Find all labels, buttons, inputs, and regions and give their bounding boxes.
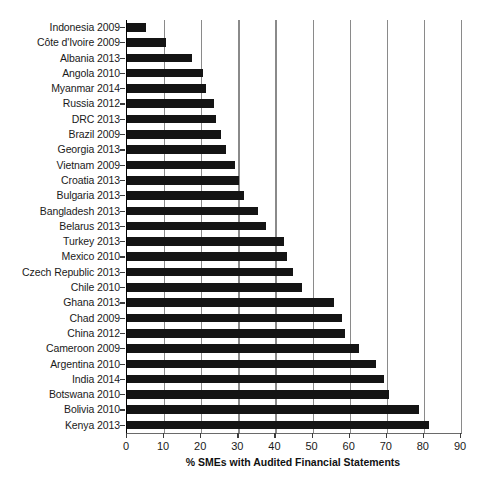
category-tick bbox=[120, 256, 125, 257]
bar bbox=[127, 298, 334, 307]
category-tick bbox=[120, 333, 125, 334]
x-tick bbox=[200, 433, 201, 438]
category-tick bbox=[120, 394, 125, 395]
x-axis-line bbox=[126, 433, 463, 434]
bar-row bbox=[127, 96, 461, 111]
category-tick bbox=[120, 149, 125, 150]
x-tick-label: 20 bbox=[185, 440, 215, 452]
category-label: China 2012 bbox=[67, 327, 120, 339]
bar bbox=[127, 329, 345, 338]
category-label: Czech Republic 2013 bbox=[22, 266, 120, 278]
category-tick bbox=[120, 241, 125, 242]
category-tick bbox=[120, 348, 125, 349]
bar-row bbox=[127, 341, 461, 356]
x-tick bbox=[312, 433, 313, 438]
bar-row bbox=[127, 204, 461, 219]
bar-row bbox=[127, 81, 461, 96]
category-label: Angola 2010 bbox=[62, 67, 120, 79]
category-tick bbox=[120, 195, 125, 196]
category-tick bbox=[120, 165, 125, 166]
bar bbox=[127, 99, 214, 108]
x-tick-label: 10 bbox=[148, 440, 178, 452]
category-tick bbox=[120, 73, 125, 74]
category-tick bbox=[120, 119, 125, 120]
x-tick-label: 40 bbox=[259, 440, 289, 452]
category-tick bbox=[120, 287, 125, 288]
bar bbox=[127, 130, 221, 139]
category-tick bbox=[120, 27, 125, 28]
category-tick bbox=[120, 88, 125, 89]
bar-row bbox=[127, 234, 461, 249]
bar-row bbox=[127, 326, 461, 341]
bar-row bbox=[127, 66, 461, 81]
bar-row bbox=[127, 188, 461, 203]
category-tick bbox=[120, 134, 125, 135]
x-tick bbox=[460, 433, 461, 438]
x-tick-label: 90 bbox=[445, 440, 475, 452]
category-label: DRC 2013 bbox=[72, 113, 120, 125]
category-label: Russia 2012 bbox=[63, 97, 120, 109]
category-label: Chad 2009 bbox=[70, 312, 120, 324]
category-axis-labels: Indonesia 2009Côte d'Ivoire 2009Albania … bbox=[0, 20, 126, 433]
bar-row bbox=[127, 20, 461, 35]
x-tick-label: 0 bbox=[111, 440, 141, 452]
x-tick bbox=[163, 433, 164, 438]
category-label: Brazil 2009 bbox=[69, 128, 120, 140]
bar bbox=[127, 360, 376, 369]
bar bbox=[127, 38, 166, 47]
category-tick bbox=[120, 58, 125, 59]
bar-row bbox=[127, 357, 461, 372]
bar bbox=[127, 23, 146, 32]
category-label: India 2014 bbox=[72, 373, 120, 385]
bar-row bbox=[127, 295, 461, 310]
bar-row bbox=[127, 402, 461, 417]
category-label: Ghana 2013 bbox=[63, 296, 120, 308]
bar bbox=[127, 252, 287, 261]
x-tick bbox=[423, 433, 424, 438]
category-tick bbox=[120, 302, 125, 303]
bar bbox=[127, 207, 258, 216]
x-tick-label: 50 bbox=[297, 440, 327, 452]
x-tick-label: 30 bbox=[222, 440, 252, 452]
bar-row bbox=[127, 112, 461, 127]
category-label: Bulgaria 2013 bbox=[57, 189, 121, 201]
category-label: Argentina 2010 bbox=[50, 358, 120, 370]
bar bbox=[127, 161, 235, 170]
category-tick bbox=[120, 318, 125, 319]
bar bbox=[127, 314, 342, 323]
bar bbox=[127, 237, 284, 246]
bar bbox=[127, 145, 226, 154]
category-tick bbox=[120, 379, 125, 380]
bar-row bbox=[127, 127, 461, 142]
bar-row bbox=[127, 280, 461, 295]
category-tick bbox=[120, 364, 125, 365]
category-label: Myanmar 2014 bbox=[51, 82, 120, 94]
bar bbox=[127, 421, 429, 430]
bar bbox=[127, 390, 389, 399]
bar bbox=[127, 84, 206, 93]
bar bbox=[127, 375, 384, 384]
bar-row bbox=[127, 372, 461, 387]
bar bbox=[127, 176, 239, 185]
category-label: Bolivia 2010 bbox=[64, 403, 120, 415]
bar bbox=[127, 191, 244, 200]
bar bbox=[127, 222, 266, 231]
category-tick bbox=[120, 409, 125, 410]
bar-row bbox=[127, 418, 461, 433]
bar bbox=[127, 283, 302, 292]
category-label: Mexico 2010 bbox=[62, 250, 120, 262]
bar bbox=[127, 344, 359, 353]
x-tick bbox=[126, 433, 127, 438]
x-tick bbox=[349, 433, 350, 438]
bar-row bbox=[127, 219, 461, 234]
bar-row bbox=[127, 387, 461, 402]
category-label: Indonesia 2009 bbox=[50, 21, 120, 33]
bar bbox=[127, 54, 192, 63]
category-tick bbox=[120, 180, 125, 181]
bar-row bbox=[127, 265, 461, 280]
category-tick bbox=[120, 103, 125, 104]
category-label: Albania 2013 bbox=[60, 52, 120, 64]
x-tick bbox=[386, 433, 387, 438]
bar-chart: Indonesia 2009Côte d'Ivoire 2009Albania … bbox=[0, 0, 485, 484]
bar-row bbox=[127, 142, 461, 157]
